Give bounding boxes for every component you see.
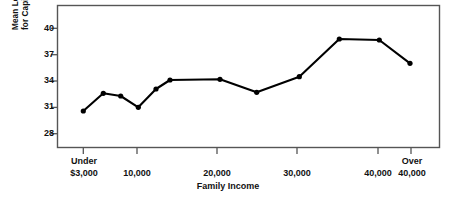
y-tick-label-34: 34 [32, 75, 54, 85]
data-point [377, 37, 382, 42]
data-point [136, 105, 141, 110]
y-tick-label-31: 31 [32, 101, 54, 111]
plot-frame [58, 6, 440, 148]
y-tick-label-40: 40 [32, 23, 54, 33]
data-point [101, 91, 106, 96]
data-point [254, 90, 259, 95]
y-tick-label-28: 28 [32, 128, 54, 138]
data-point [153, 86, 158, 91]
data-point [337, 36, 342, 41]
x-tick-label-under-3000-line2: $3,000 [58, 168, 110, 179]
series-line-support [83, 39, 410, 111]
x-tick-label-under-3000-line1: Under [58, 156, 110, 167]
data-point [217, 77, 222, 82]
y-tick-label-37: 37 [32, 49, 54, 59]
y-axis-title-line-2: for Capitalism [21, 0, 31, 30]
x-tick-label-30000: 30,000 [271, 168, 323, 179]
data-point [81, 108, 86, 113]
data-point [167, 77, 172, 82]
x-tick-label-over-40000-line1: Over [386, 156, 438, 167]
y-axis-title-line-1: Mean Level of Support [11, 0, 21, 30]
x-axis-title: Family Income [0, 181, 456, 191]
x-tick-label-over-40000-line2: 40,000 [386, 168, 438, 179]
chart-figure: Mean Level of Support for Capitalism 40 … [0, 0, 456, 202]
data-point [118, 93, 123, 98]
data-point [297, 74, 302, 79]
x-tick-label-20000: 20,000 [191, 168, 243, 179]
x-tick-label-10000: 10,000 [111, 168, 163, 179]
data-point [407, 61, 412, 66]
